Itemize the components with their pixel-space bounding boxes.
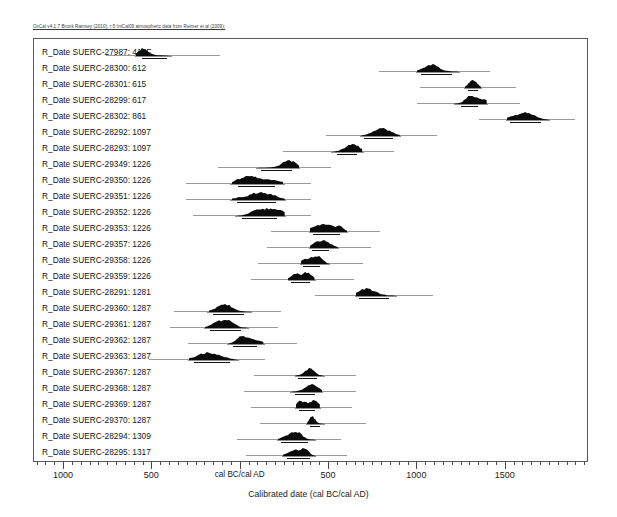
probability-density-curve — [333, 144, 362, 152]
distribution-row: R_Date SUERC-28302: 861 — [34, 108, 587, 125]
distribution-row: R_Date SUERC-28291: 1281 — [34, 284, 587, 301]
row-label: R_Date SUERC-28291: 1281 — [42, 287, 151, 297]
axis-tick-minor — [363, 462, 364, 465]
row-label: R_Date SUERC-29361: 1287 — [42, 319, 151, 329]
row-label: R_Date SUERC-29370: 1287 — [42, 415, 151, 425]
axis-tick-minor — [584, 462, 585, 465]
axis-tick-minor — [522, 462, 523, 465]
distribution-row: R_Date SUERC-29350: 1226 — [34, 172, 587, 189]
axis-tick-minor — [160, 462, 161, 465]
axis-tick-minor — [125, 462, 126, 465]
axis-tick-minor — [196, 462, 197, 465]
axis-tick-label: 500 — [321, 470, 336, 480]
x-axis-title: Calibrated date (cal BC/cal AD) — [0, 489, 617, 499]
axis-tick-major — [151, 462, 152, 469]
axis-tick-minor — [452, 462, 453, 465]
probability-density-curve — [307, 416, 324, 424]
axis-tick-minor — [337, 462, 338, 465]
probability-density-curve — [310, 240, 338, 248]
axis-tick-minor — [443, 462, 444, 465]
oxcal-credit-line: OxCal v4.1.7 Bronk Ramsey (2010); r:5 In… — [33, 24, 333, 29]
probability-density-curve — [189, 352, 237, 360]
row-label: R_Date SUERC-29358: 1226 — [42, 255, 151, 265]
axis-tick-minor — [54, 462, 55, 465]
distribution-row: R_Date SUERC-28292: 1097 — [34, 124, 587, 141]
axis-tick-minor — [231, 462, 232, 465]
axis-tick-minor — [169, 462, 170, 465]
distribution-row: R_Date SUERC-28300: 612 — [34, 60, 587, 77]
probability-density-curve — [209, 304, 251, 312]
distribution-row: R_Date SUERC-28295: 1317 — [34, 444, 587, 461]
axis-tick-minor — [302, 462, 303, 465]
axis-tick-minor — [293, 462, 294, 465]
axis-tick-minor — [390, 462, 391, 465]
axis-tick-minor — [567, 462, 568, 465]
axis-tick-minor — [355, 462, 356, 465]
axis-tick-major — [240, 462, 241, 469]
row-label: R_Date SUERC-29350: 1226 — [42, 175, 151, 185]
probability-density-curve — [356, 288, 397, 296]
axis-tick-major — [328, 462, 329, 469]
axis-tick-minor — [319, 462, 320, 465]
axis-tick-minor — [45, 462, 46, 465]
probability-density-curve — [296, 400, 320, 408]
axis-tick-minor — [107, 462, 108, 465]
axis-tick-label: 500 — [144, 470, 159, 480]
axis-tick-minor — [81, 462, 82, 465]
axis-tick-minor — [178, 462, 179, 465]
axis-tick-minor — [496, 462, 497, 465]
row-label: R_Date SUERC-28300: 612 — [42, 63, 146, 73]
distribution-row: R_Date SUERC-29357: 1226 — [34, 236, 587, 253]
axis-tick-label: 1500 — [495, 470, 515, 480]
probability-density-curve — [288, 272, 315, 280]
distribution-row: R_Date SUERC-29363: 1287 — [34, 348, 587, 365]
row-label: R_Date SUERC-29362: 1287 — [42, 335, 151, 345]
distribution-row: R_Date SUERC-29367: 1287 — [34, 364, 587, 381]
row-label: R_Date SUERC-29367: 1287 — [42, 367, 151, 377]
axis-tick-minor — [284, 462, 285, 465]
distribution-row: R_Date SUERC-29349: 1226 — [34, 156, 587, 173]
distribution-row: R_Date SUERC-27987: 415F — [34, 44, 587, 61]
axis-tick-minor — [531, 462, 532, 465]
row-label: R_Date SUERC-28293: 1097 — [42, 143, 151, 153]
row-label: R_Date SUERC-29360: 1287 — [42, 303, 151, 313]
distribution-row: R_Date SUERC-28294: 1309 — [34, 428, 587, 445]
distribution-row: R_Date SUERC-29361: 1287 — [34, 316, 587, 333]
probability-density-curve — [232, 176, 283, 184]
axis-tick-label: 1000 — [406, 470, 426, 480]
distribution-row: R_Date SUERC-29352: 1226 — [34, 204, 587, 221]
axis-tick-minor — [116, 462, 117, 465]
row-label: R_Date SUERC-28302: 861 — [42, 111, 146, 121]
distribution-row: R_Date SUERC-29359: 1226 — [34, 268, 587, 285]
axis-tick-minor — [381, 462, 382, 465]
axis-tick-minor — [434, 462, 435, 465]
axis-tick-minor — [37, 462, 38, 465]
probability-density-curve — [310, 224, 347, 232]
axis-tick-minor — [134, 462, 135, 465]
probability-density-curve — [292, 384, 322, 392]
row-label: R_Date SUERC-29363: 1287 — [42, 351, 151, 361]
distribution-row: R_Date SUERC-29370: 1287 — [34, 412, 587, 429]
probability-density-curve — [232, 192, 285, 200]
row-label: R_Date SUERC-29357: 1226 — [42, 239, 151, 249]
probability-density-curve — [278, 432, 315, 440]
axis-tick-minor — [187, 462, 188, 465]
axis-tick-minor — [425, 462, 426, 465]
axis-tick-minor — [487, 462, 488, 465]
row-label: R_Date SUERC-28292: 1097 — [42, 127, 151, 137]
axis-tick-minor — [540, 462, 541, 465]
axis-tick-minor — [408, 462, 409, 465]
axis-tick-minor — [310, 462, 311, 465]
axis-tick-label: 1000 — [53, 470, 73, 480]
probability-density-curve — [295, 368, 323, 376]
axis-tick-minor — [549, 462, 550, 465]
axis-tick-minor — [346, 462, 347, 465]
x-axis: 1000500cal BC/cal AD50010001500 — [33, 462, 588, 472]
axis-tick-minor — [469, 462, 470, 465]
probability-density-curve — [454, 96, 487, 104]
probability-density-curve — [301, 256, 329, 264]
axis-tick-minor — [249, 462, 250, 465]
row-label: R_Date SUERC-29359: 1226 — [42, 271, 151, 281]
axis-tick-minor — [575, 462, 576, 465]
axis-tick-minor — [204, 462, 205, 465]
